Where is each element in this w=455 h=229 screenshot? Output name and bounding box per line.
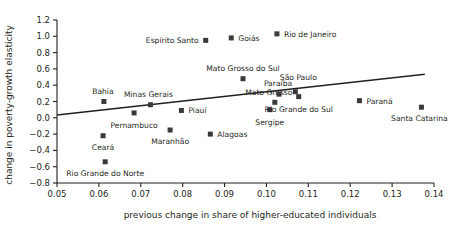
y-tick-label: −0.8	[29, 178, 50, 188]
x-tick-label: 0.10	[257, 189, 276, 199]
data-point-marker	[240, 76, 245, 81]
data-point-marker	[208, 132, 213, 137]
data-point-marker	[132, 110, 137, 115]
x-tick-label: 0.05	[48, 189, 67, 199]
y-tick-label: 0.2	[36, 97, 50, 107]
data-point-marker	[419, 105, 424, 110]
data-point-label: Espírito Santo	[146, 36, 199, 45]
x-tick-label: 0.08	[173, 189, 192, 199]
x-tick-label: 0.12	[341, 189, 360, 199]
data-point-label: Rio Grande do Sul	[264, 105, 332, 114]
y-tick-label: −0.6	[29, 162, 50, 172]
data-point-marker	[179, 108, 184, 113]
x-tick-label: 0.09	[215, 189, 234, 199]
data-point-marker	[357, 98, 362, 103]
data-point-label: Piauí	[188, 106, 207, 115]
x-tick-label: 0.13	[383, 189, 402, 199]
data-point-label: Paraná	[366, 97, 392, 106]
data-point-marker	[296, 94, 301, 99]
data-point-marker	[203, 38, 208, 43]
y-tick-label: −0.2	[29, 129, 50, 139]
y-axis: 1.21.00.80.60.40.20.0−0.2−0.4−0.6−0.8	[29, 15, 57, 188]
x-tick-label: 0.14	[425, 189, 444, 199]
y-tick-label: 1.0	[36, 31, 50, 41]
x-axis: 0.050.060.070.080.090.100.110.120.130.14	[48, 183, 444, 199]
data-point-label: Alagoas	[217, 130, 247, 139]
data-point-label: Rio de Janeiro	[284, 30, 337, 39]
data-point-marker	[274, 31, 279, 36]
data-point-label: Sergipe	[255, 118, 284, 127]
data-point-label: Minas Gerais	[124, 90, 173, 99]
data-point-label: Bahia	[92, 87, 113, 96]
y-tick-label: 0.8	[36, 48, 50, 58]
y-tick-label: −0.4	[29, 145, 50, 155]
scatter-chart: 1.21.00.80.60.40.20.0−0.2−0.4−0.6−0.8 0.…	[0, 0, 455, 229]
data-points: BahiaCearáRio Grande do NortePernambucoM…	[66, 30, 447, 178]
x-tick-label: 0.07	[131, 189, 150, 199]
data-point-label: Mato Grosso do Sul	[206, 64, 279, 73]
y-tick-label: 1.2	[36, 15, 50, 25]
data-point-marker	[148, 102, 153, 107]
data-point-marker	[101, 99, 106, 104]
data-point-label: Goiás	[238, 34, 259, 43]
data-point-label: São Paulo	[280, 73, 317, 82]
x-tick-label: 0.06	[89, 189, 108, 199]
data-point-marker	[103, 159, 108, 164]
y-tick-label: 0.4	[36, 80, 50, 90]
data-point-label: Ceará	[92, 143, 114, 152]
data-point-label: Maranhão	[151, 137, 189, 146]
x-axis-title: previous change in share of higher-educa…	[124, 210, 377, 220]
y-tick-label: 0.0	[36, 113, 50, 123]
plot-area: 1.21.00.80.60.40.20.0−0.2−0.4−0.6−0.8 0.…	[0, 0, 455, 229]
data-point-marker	[293, 89, 298, 94]
y-tick-label: 0.6	[36, 64, 50, 74]
data-point-marker	[101, 133, 106, 138]
data-point-marker	[277, 92, 282, 97]
data-point-label: Santa Catarina	[391, 114, 448, 123]
data-point-marker	[229, 35, 234, 40]
data-point-label: Rio Grande do Norte	[66, 169, 144, 178]
data-point-label: Pernambuco	[110, 121, 158, 130]
x-tick-label: 0.11	[299, 189, 318, 199]
data-point-label: Mato Grosso	[245, 88, 293, 97]
data-point-marker	[168, 128, 173, 133]
y-axis-title: change in poverty-growth elasticity	[4, 25, 14, 185]
